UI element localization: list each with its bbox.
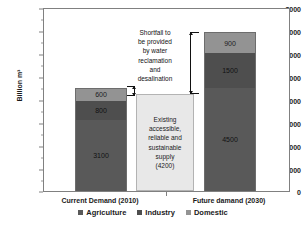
legend-label-industry: Industry [145,208,175,217]
bar-value-domestic-current: 600 [95,91,107,98]
bar-value-agriculture-current: 3100 [93,152,109,159]
bar-segment-domestic-future[interactable]: 900 [204,32,256,53]
bar-current-demand[interactable]: 600 800 3100 [75,88,127,191]
legend-swatch-industry-icon [137,210,142,215]
bar-segment-agriculture-future[interactable]: 4500 [204,88,256,192]
plot-area: 600 800 3100 900 1500 4500 Existing [43,8,290,192]
legend-item-industry[interactable]: Industry [137,208,175,217]
x-axis-tick-center [166,192,167,196]
legend-label-domestic: Domestic [194,208,228,217]
bar-future-demand[interactable]: 900 1500 4500 [204,32,256,191]
shortfall-bracket [190,32,199,94]
legend-label-agriculture: Agriculture [86,208,126,217]
legend-swatch-domestic-icon [186,210,191,215]
x-category-label-current: Current Demand (2010) [61,197,138,204]
legend-item-agriculture[interactable]: Agriculture [78,208,126,217]
bar-segment-industry-future[interactable]: 1500 [204,53,256,88]
existing-supply-annotation-text: Existing accessible, reliable and sustai… [146,115,184,170]
shortfall-arrow-up-icon [189,32,193,35]
bar-value-industry-future: 1500 [222,67,238,74]
y-axis-title: Billion m³ [16,41,23,131]
bar-segment-industry-current[interactable]: 800 [75,101,127,119]
chart-legend: Agriculture Industry Domestic [0,208,306,217]
water-demand-stacked-bar-chart: Billion m³ 8000 7000 6000 5000 4000 3000… [0,0,306,230]
legend-swatch-agriculture-icon [78,210,83,215]
bar-value-industry-current: 800 [95,107,107,114]
gap-arrow-down-icon [132,93,136,96]
bar-segment-agriculture-current[interactable]: 3100 [75,120,127,191]
bar-value-agriculture-future: 4500 [222,136,238,143]
gap-arrow-up-icon [132,86,136,89]
bar-segment-domestic-current[interactable]: 600 [75,88,127,102]
legend-item-domestic[interactable]: Domestic [186,208,228,217]
shortfall-annotation-text: Shortfall to be provided by water reclam… [124,28,186,83]
existing-supply-annotation-box: Existing accessible, reliable and sustai… [136,94,194,191]
shortfall-arrow-down-icon [189,91,193,94]
current-demand-gap-bracket [127,86,135,97]
bar-value-domestic-future: 900 [224,40,236,47]
x-category-label-future: Future damand (2030) [193,197,266,204]
